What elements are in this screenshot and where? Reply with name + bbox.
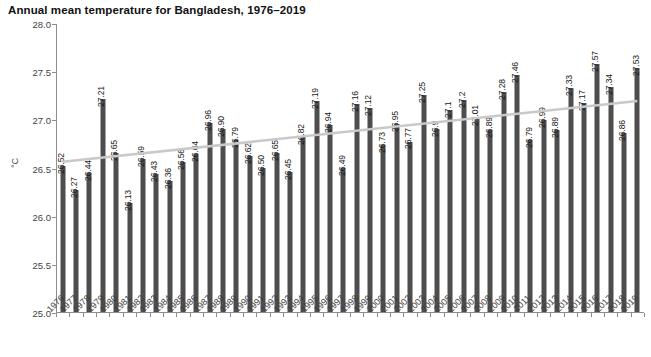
y-axis-tick-label: 27.0 — [33, 115, 52, 126]
x-axis-tick-mark — [470, 313, 471, 317]
x-axis-tick-mark — [323, 313, 324, 317]
x-axis-tick-mark — [444, 313, 445, 317]
x-axis-tick-mark — [363, 313, 364, 317]
x-axis-tick-mark — [550, 313, 551, 317]
x-axis-tick-mark — [403, 313, 404, 317]
x-axis-tick-mark — [96, 313, 97, 317]
x-axis-tick-mark — [524, 313, 525, 317]
x-axis-tick-mark — [150, 313, 151, 317]
x-axis-tick-mark — [577, 313, 578, 317]
y-axis-tick-label: 26.5 — [33, 163, 52, 174]
x-axis-tick-mark — [310, 313, 311, 317]
x-axis-tick-mark — [83, 313, 84, 317]
x-axis-tick-mark — [163, 313, 164, 317]
y-axis-tick-label: 26.0 — [33, 211, 52, 222]
x-axis-tick-mark — [484, 313, 485, 317]
x-axis-tick-mark — [390, 313, 391, 317]
x-axis-tick-mark — [256, 313, 257, 317]
chart-title: Annual mean temperature for Bangladesh, … — [8, 4, 306, 16]
temperature-bar-chart: Annual mean temperature for Bangladesh, … — [0, 0, 651, 357]
x-axis-tick-mark — [216, 313, 217, 317]
x-axis-tick-mark — [457, 313, 458, 317]
x-axis-tick-mark — [56, 313, 57, 317]
y-axis-title: °C — [10, 158, 20, 168]
x-axis-tick-mark — [283, 313, 284, 317]
x-axis-tick-mark — [350, 313, 351, 317]
x-axis-tick-mark — [69, 313, 70, 317]
x-axis-tick-mark — [136, 313, 137, 317]
x-axis-tick-mark — [510, 313, 511, 317]
y-axis-tick-label: 28.0 — [33, 19, 52, 30]
x-axis-tick-mark — [297, 313, 298, 317]
plot-area: 25.025.526.026.527.027.528.0 26.5226.272… — [56, 24, 644, 313]
x-axis-tick-mark — [617, 313, 618, 317]
x-axis-tick-mark — [176, 313, 177, 317]
x-axis-tick-mark — [337, 313, 338, 317]
x-axis-tick-mark — [123, 313, 124, 317]
x-axis-tick-mark — [190, 313, 191, 317]
y-axis-tick-label: 27.5 — [33, 67, 52, 78]
x-axis-tick-mark — [631, 313, 632, 317]
x-axis-tick-mark — [644, 313, 645, 317]
x-axis-ticks — [56, 24, 644, 313]
x-axis-tick-mark — [230, 313, 231, 317]
x-axis-tick-mark — [430, 313, 431, 317]
x-axis-tick-mark — [243, 313, 244, 317]
y-axis-tick-label: 25.5 — [33, 259, 52, 270]
x-axis-tick-mark — [564, 313, 565, 317]
x-axis-tick-mark — [604, 313, 605, 317]
x-axis-tick-mark — [109, 313, 110, 317]
x-axis-tick-mark — [417, 313, 418, 317]
x-axis-tick-mark — [270, 313, 271, 317]
x-axis-tick-mark — [591, 313, 592, 317]
x-axis-tick-mark — [203, 313, 204, 317]
x-axis-tick-mark — [497, 313, 498, 317]
x-axis-tick-mark — [377, 313, 378, 317]
x-axis-tick-mark — [537, 313, 538, 317]
